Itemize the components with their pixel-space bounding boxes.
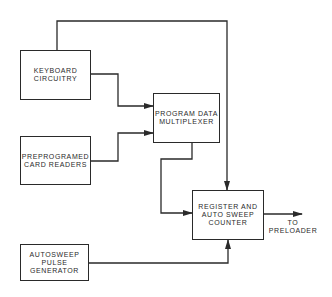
register-label: REGISTER AND AUTO SWEEP COUNTER xyxy=(198,203,257,227)
card-readers-block: PREPROGRAMED CARD READERS xyxy=(20,136,91,185)
program-data-multiplexer-block: PROGRAM DATA MULTIPLEXER xyxy=(153,93,220,143)
keyboard-circuitry-block: KEYBOARD CIRCUITRY xyxy=(20,50,91,100)
wire-keyboard-to-multiplexer xyxy=(91,74,153,106)
card-readers-label: PREPROGRAMED CARD READERS xyxy=(22,153,90,169)
pulse-generator-label: AUTOSWEEP PULSE GENERATOR xyxy=(29,251,79,275)
wire-multiplexer-to-register xyxy=(161,143,192,213)
multiplexer-label: PROGRAM DATA MULTIPLEXER xyxy=(155,110,218,126)
wire-pulse-generator-to-register xyxy=(89,240,228,263)
keyboard-circuitry-label: KEYBOARD CIRCUITRY xyxy=(34,67,78,83)
register-counter-block: REGISTER AND AUTO SWEEP COUNTER xyxy=(192,190,264,240)
pulse-generator-block: AUTOSWEEP PULSE GENERATOR xyxy=(20,244,89,281)
to-preloader-label: TO PRELOADER xyxy=(268,219,318,235)
wire-card-readers-to-multiplexer xyxy=(91,133,153,161)
